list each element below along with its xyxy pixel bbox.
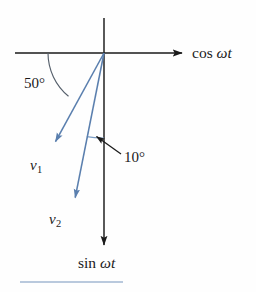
vector-label-v1-subscript: 1 — [37, 164, 42, 175]
vector-v2 — [75, 53, 104, 198]
axis-label-cos: cos ωt — [192, 45, 232, 61]
vector-label-v1: v1 — [30, 158, 42, 175]
vector-label-v1-symbol: v — [30, 157, 37, 173]
footer-rule — [20, 281, 123, 283]
axis-label-sin-symbol: ωt — [100, 254, 115, 271]
vector-v1 — [56, 53, 105, 142]
vector-label-v2: v2 — [49, 212, 61, 229]
axis-label-sin: sin ωt — [78, 255, 115, 271]
axis-label-sin-text: sin — [78, 254, 96, 271]
angle-arc-10 — [87, 137, 104, 138]
vector-label-v2-subscript: 2 — [56, 218, 61, 229]
angle-label-50: 50° — [24, 76, 45, 91]
axis-label-cos-symbol: ωt — [217, 44, 232, 61]
angle-arc-50 — [48, 53, 69, 96]
vector-label-v2-symbol: v — [49, 211, 56, 227]
angle-10-leader-line — [97, 137, 122, 155]
angle-label-10: 10° — [124, 150, 145, 165]
axis-label-cos-text: cos — [192, 44, 213, 61]
